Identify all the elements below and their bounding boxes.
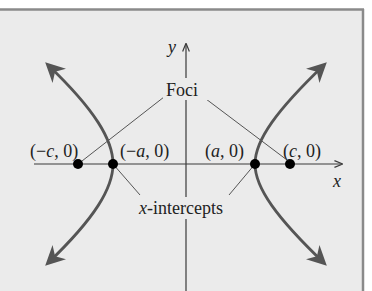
right-focus-label: (c, 0) xyxy=(283,141,321,162)
left-vertex-label: (−a, 0) xyxy=(120,141,169,162)
left-vertex-point xyxy=(108,159,118,169)
left-focus-label: (−c, 0) xyxy=(30,141,78,162)
hyperbola-figure: y x Foci x-intercepts (−c, 0) (−a, 0) (a… xyxy=(0,0,372,291)
x-axis-label: x xyxy=(332,171,341,191)
right-vertex-label: (a, 0) xyxy=(205,141,244,162)
foci-label: Foci xyxy=(166,80,198,100)
x-intercepts-label: x-intercepts xyxy=(138,198,223,218)
y-axis-label: y xyxy=(166,37,176,57)
x-intercepts-suffix: -intercepts xyxy=(147,198,223,218)
right-vertex-point xyxy=(250,159,260,169)
